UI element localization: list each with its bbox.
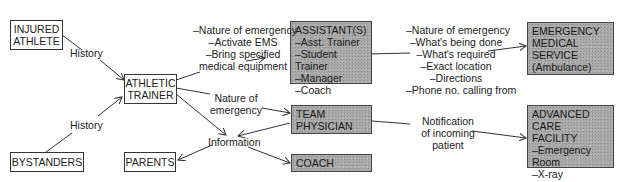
edge-label-text: –Nature of emergency <box>193 24 293 36</box>
node-athletic-trainer: ATHLETIC TRAINER <box>124 74 177 104</box>
edge-label-text: Information <box>208 136 261 148</box>
node-label: ATHLETIC <box>126 77 176 89</box>
node-label: –Asst. Trainer <box>295 36 367 48</box>
edge-label-history-bottom: History <box>70 119 103 131</box>
edge-label-text: patient <box>418 139 478 151</box>
edge-label-text: –Bring specified <box>193 48 293 60</box>
edge-label-text: –Directions <box>406 72 506 84</box>
node-label: –Coach <box>295 84 367 96</box>
node-label: ATHLETE <box>13 35 59 47</box>
node-label: TRAINER <box>127 89 173 101</box>
edge-label-text: of incoming <box>418 127 478 139</box>
node-label: SERVICE <box>532 49 609 61</box>
edge-label-text: Notification <box>418 115 478 127</box>
edge-label-text: –Nature of emergency <box>406 24 506 36</box>
edge-label-trainer-to-assistants: –Nature of emergency –Activate EMS –Brin… <box>193 24 293 72</box>
node-team-physician: TEAM PHYSICIAN <box>291 105 372 134</box>
node-bystanders: BYSTANDERS <box>10 152 84 172</box>
edge-label-trainer-to-physician: Nature of emergency <box>206 92 266 116</box>
edge-label-text: Nature of <box>206 92 266 104</box>
node-label: –Student Trainer <box>295 48 367 72</box>
edge-label-text: –Activate EMS <box>193 36 293 48</box>
edge-label-text: History <box>70 119 103 131</box>
node-injured-athlete: INJURED ATHLETE <box>10 20 63 50</box>
node-label: BYSTANDERS <box>12 156 82 168</box>
node-label: TEAM <box>296 108 367 120</box>
node-label: (Ambulance) <box>532 61 609 73</box>
node-label: –Other <box>532 180 609 182</box>
node-coach: COACH <box>291 154 372 172</box>
node-emergency-medical-service: EMERGENCY MEDICAL SERVICE (Ambulance) <box>527 22 614 75</box>
node-label: EMERGENCY <box>532 25 609 37</box>
node-label: –X-ray <box>532 168 609 180</box>
edge-label-text: –Phone no. calling from <box>406 84 506 96</box>
edge-label-information: Information <box>208 136 261 148</box>
node-parents: PARENTS <box>124 152 176 172</box>
edge-label-text: medical equipment <box>193 60 293 72</box>
edge-label-text: emergency <box>206 104 266 116</box>
edge-label-text: –What's required <box>406 48 506 60</box>
node-label: COACH <box>296 157 367 169</box>
node-label: –Emergency Room <box>532 144 609 168</box>
node-label: FACILITY <box>532 132 609 144</box>
node-label: INJURED <box>14 23 60 35</box>
edge-label-text: –Exact location <box>406 60 506 72</box>
edge-label-assistants-to-ems: –Nature of emergency –What's being done … <box>406 24 506 96</box>
edge-label-history-top: History <box>70 47 103 59</box>
edge-label-text: History <box>70 47 103 59</box>
node-label: MEDICAL <box>532 37 609 49</box>
edge-label-text: –What's being done <box>406 36 506 48</box>
node-label: PARENTS <box>126 156 175 168</box>
node-label: PHYSICIAN <box>296 120 367 132</box>
node-label: ADVANCED CARE <box>532 108 609 132</box>
node-label: ASSISTANT(S) <box>295 24 367 36</box>
node-label: –Manager <box>295 72 367 84</box>
node-advanced-care-facility: ADVANCED CARE FACILITY –Emergency Room –… <box>527 105 614 168</box>
edge-label-physician-to-facility: Notification of incoming patient <box>418 115 478 151</box>
node-assistants: ASSISTANT(S) –Asst. Trainer –Student Tra… <box>290 21 372 84</box>
